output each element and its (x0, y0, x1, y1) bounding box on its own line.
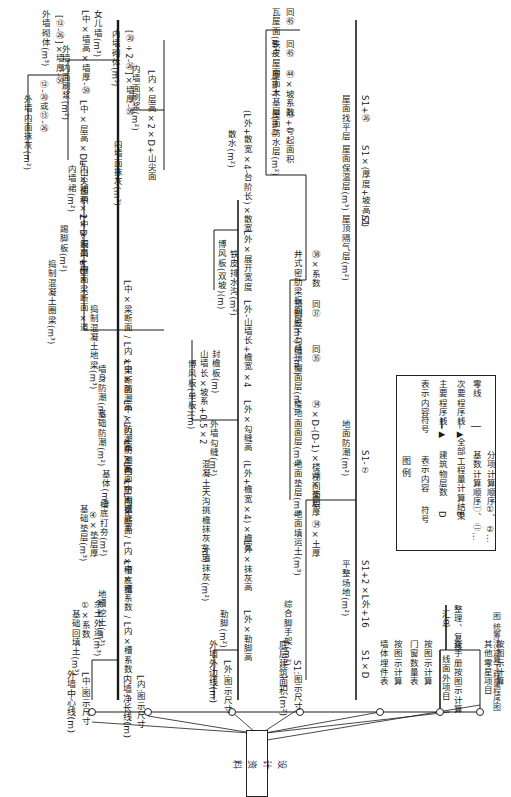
base-4-formula: S1:图示尺寸 (292, 660, 302, 712)
other-node-3 (436, 708, 444, 716)
out-31-name: 散水(m²) (226, 130, 236, 168)
legend-r2-desc2: 次要程序线 (455, 380, 465, 427)
fnd-4-name: 槽底打夯(m²) (98, 500, 108, 557)
flr-36-formula: ㉞×D-(D-1)×楼梯间面积 (310, 400, 320, 510)
fnd-15-name: 外墙砌体(m³) (40, 10, 50, 67)
flr-45-formula: ㊹×坡系数 (284, 70, 294, 118)
out-29-name: 博风板(双坡)(m) (216, 240, 226, 310)
fnd-6-name: 基体(m³) (100, 470, 110, 508)
flr-47-formula: 同㊺ (284, 8, 294, 27)
base-3-formula: L外:图示尺寸 (222, 660, 232, 715)
flr-44-formula: ㊸+夸起面积 (284, 110, 294, 164)
fnd-2-formula: ①×系数 (80, 600, 90, 639)
flr-47-name: 瓦屋面(m²) (270, 8, 280, 55)
out-23-formula: L外×勒脚高 (242, 610, 252, 663)
fnd-11-name: 踢脚板(m²) (58, 225, 68, 272)
out-25-formula: (L外+檐宽×4)×檐宽 (242, 460, 252, 553)
out-26-formula: L外×勾缝高 (242, 400, 252, 453)
fnd-16-name: 女儿墙(m³) (92, 10, 102, 57)
legend-r4-sym: ①、②… (485, 504, 495, 543)
legend-header-content-2: 表示内容 (419, 380, 429, 417)
flr-43-name: 屋面找平层 (340, 95, 350, 142)
legend-r3-desc: 基数计算顺序 (471, 451, 481, 507)
oth-2-formula: 按图示计算 (422, 640, 432, 687)
flr-42-formula: S1×(厚度+坡高/2) (360, 145, 370, 227)
legend-r3-sym: ㊀、㊁… (471, 504, 481, 541)
fnd-22-name: 内墙砌体(m³) (110, 30, 120, 87)
other-node-1 (376, 708, 384, 716)
legend-r1-sym: D (437, 511, 447, 518)
out-30-name: 铁皮排水沟(m²) (228, 250, 238, 316)
design-data-label: 设计资料 (227, 759, 287, 772)
legend-r3-desc2: 零线 (471, 380, 481, 399)
flr-42-name: 屋面保温层(m³) (340, 145, 350, 211)
flr-46-formula: 同㊺ (284, 40, 294, 59)
oth-5-formula: 整理、复核 (452, 605, 462, 652)
flr-34-formula: ㉞×土厚 (310, 520, 320, 558)
flr-33-formula: S1+2×L外+16 (360, 560, 370, 628)
fnd-21-formula: L内×层高×2×D+山尖面 (146, 70, 156, 182)
flr-32-name: 综合脚手架(m²) (282, 600, 292, 666)
fnd-2-name: 基础回填土(m³) (70, 610, 80, 676)
figure-caption: 图 统筹法计算工程量程序图 (490, 612, 501, 711)
fnd-13-formula: ⑫-⑳或⑬-㉖ (38, 80, 48, 133)
flr-37-formula: 同㉟ (310, 345, 320, 364)
out-23-name: 勒脚(m²) (218, 610, 228, 648)
fnd-15-formula: [⑫-㉖]×墙厚-㊿ (54, 15, 64, 86)
oth-5-name: 汇总 (440, 610, 450, 629)
fnd-22-formula: [⑳÷2-㉖]×墙厚-㊿ (124, 30, 134, 117)
legend-r2-desc: 全部工程量计算结束 (455, 438, 465, 522)
base-1-name: 外墙中心线(m) (66, 670, 76, 733)
oth-1-name: 墙体埋件表 (378, 640, 388, 687)
legend-table: 图 例 符号 表示内容 符号 表示内容 D 建筑物层数 ━━▶ 主要程序线 E … (396, 375, 496, 551)
out-26-name: 外墙勾缝(m²) (208, 420, 218, 477)
fnd-13-name: 外墙内面抹灰(m²) (22, 95, 32, 170)
out-27-formula: 山墙长×坡系+0.5×2 (198, 350, 208, 445)
base-node-2 (144, 708, 152, 716)
legend-title: 图 例 (401, 456, 411, 478)
base-2-name: 内墙净长线(m) (122, 675, 132, 738)
fnd-10-name: 捣制混凝土圈梁(m³) (46, 260, 56, 345)
legend-r3-sym2: │ (471, 424, 481, 429)
flr-32-formula: S1×D (360, 650, 370, 679)
flr-39-name: 井式密肋梁板面层(m²) (292, 250, 302, 344)
legend-header-content-1: 表示内容 (419, 456, 429, 493)
other-node-4 (476, 708, 484, 716)
out-28-formula: L外-山墙长+檐宽×4 (242, 300, 252, 388)
base-3-name: 外墙外边线(m) (208, 640, 218, 703)
fnd-3-name: 余土外运(m³) (92, 600, 102, 657)
oth-3-name: 线面外项目 (440, 655, 450, 702)
base-1-formula: L中:图示尺寸 (80, 672, 90, 727)
legend-header-symbol-1: 符号 (419, 506, 429, 525)
fnd-9-formula: L中×梁断面 / L内×梁断面 (122, 280, 132, 394)
flr-35-name: 地面垫层(m³) (292, 460, 302, 517)
out-31-formula: (L外+散宽×4-台阶长)×散宽 (242, 110, 252, 234)
legend-r1-desc2: 主要程序线 (437, 380, 447, 427)
legend-r4-desc: 分项计算顺序 (485, 451, 495, 507)
fnd-20-name: 内墙面抹灰(m²) (112, 140, 122, 206)
legend-header-symbol-2: 符号 (419, 416, 429, 435)
fnd-19-name: 内墙裙(m²) (66, 165, 76, 212)
flr-34-name: 地面填运土(m³) (292, 510, 302, 576)
fnd-16-formula: L中×墙高×墙厚-㊿ (80, 10, 90, 95)
flr-38-formula: 同㊲ (310, 300, 320, 319)
flr-40-name: 地面防潮(m²) (340, 420, 350, 477)
fnd-14-formula: L中×层高×D+山尖面积 (78, 100, 88, 205)
out-27-name: 博风板(单板)(m) (186, 360, 196, 430)
fnd-5-formula: ④×垫层厚 (88, 510, 98, 559)
fnd-5-name: 基础垫层(m³) (78, 505, 88, 562)
flr-40-formula: S1-⑦ (360, 450, 370, 475)
oth-1-formula: 按图示计算 (392, 640, 402, 687)
design-data-box: 设计资料 (246, 730, 268, 797)
base-2-formula: L内:图示尺寸 (135, 675, 145, 730)
flr-41-name: 屋顶隔气层(m²) (340, 215, 350, 281)
out-30-formula: L外×展开宽度 (242, 230, 252, 292)
fnd-9-name: 捣制混凝土地梁(m³) (88, 305, 98, 390)
flr-43-formula: S1+㉖ (360, 95, 370, 123)
out-28-name: 封檐板(m) (210, 350, 220, 394)
legend-r1-desc: 建筑物层数 (437, 451, 447, 498)
oth-2-name: 门窗数量表 (408, 640, 418, 687)
flr-33-name: 平整场地(m²) (340, 560, 350, 617)
flr-39-formula: ㊳×系数 (310, 250, 320, 288)
